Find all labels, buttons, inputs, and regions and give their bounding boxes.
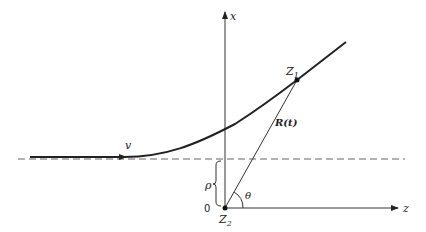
distance-line: [225, 80, 297, 208]
x-axis-label: x: [230, 10, 237, 23]
z-axis-label: z: [402, 202, 409, 215]
point-z2: [223, 206, 228, 211]
origin-label: 0: [204, 203, 210, 214]
z1-label-sub: 1: [294, 71, 299, 80]
z2-label-sub: 2: [226, 219, 232, 228]
z2-label: Z2: [218, 213, 232, 228]
angle-label: θ: [245, 190, 251, 201]
z1-label-main: Z: [285, 65, 294, 78]
angle-arc: [234, 192, 243, 208]
trajectory-curve: [124, 42, 346, 157]
z1-label: Z1: [285, 65, 299, 80]
scattering-diagram: x z v Z1 R(t) θ ρ 0 Z2: [0, 0, 426, 232]
distance-label: R(t): [274, 117, 298, 128]
velocity-label: v: [125, 139, 132, 152]
impact-parameter-label: ρ: [204, 179, 212, 192]
impact-parameter-bracket: [213, 161, 221, 206]
z2-label-main: Z: [218, 213, 227, 226]
